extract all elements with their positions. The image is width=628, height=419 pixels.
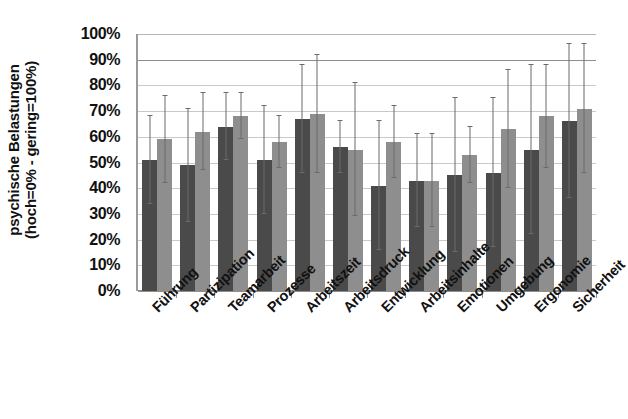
- error-bar-cap: [582, 43, 587, 44]
- y-tick-label: 40%: [89, 179, 120, 197]
- y-tick-label: 10%: [89, 256, 120, 274]
- error-bar-cap: [262, 105, 267, 106]
- error-bar: [264, 106, 265, 214]
- error-bar-cap: [467, 182, 472, 183]
- error-bar-cap: [391, 177, 396, 178]
- error-bar-cap: [300, 172, 305, 173]
- bar-slot: [348, 34, 363, 291]
- error-bar: [164, 96, 165, 183]
- bar-slot: [524, 34, 539, 291]
- error-bar: [569, 44, 570, 198]
- bar-group: [558, 34, 596, 291]
- error-bar: [225, 93, 226, 160]
- error-bar-cap: [529, 64, 534, 65]
- bar-slot: [257, 34, 272, 291]
- y-axis-title-line2: (hoch=0% - gering=100%): [23, 61, 40, 239]
- error-bar: [531, 65, 532, 235]
- y-tick-label: 70%: [89, 102, 120, 120]
- bar-group: [253, 34, 291, 291]
- error-bar-cap: [529, 233, 534, 234]
- error-bar-cap: [277, 167, 282, 168]
- error-bar-cap: [353, 215, 358, 216]
- y-tick-label: 0%: [98, 282, 120, 300]
- error-bar: [431, 134, 432, 227]
- error-bar-cap: [353, 82, 358, 83]
- error-bar-cap: [506, 187, 511, 188]
- error-bar-cap: [262, 213, 267, 214]
- error-bar-cap: [162, 95, 167, 96]
- error-bar-cap: [414, 133, 419, 134]
- bar-slot: [180, 34, 195, 291]
- error-bar-cap: [338, 172, 343, 173]
- error-bar-cap: [185, 221, 190, 222]
- error-bar-cap: [452, 97, 457, 98]
- error-bar-cap: [429, 133, 434, 134]
- y-axis-title-line1: psychische Belastungen: [6, 61, 23, 239]
- error-bar: [187, 109, 188, 222]
- bar-slot: [295, 34, 310, 291]
- error-bar: [508, 70, 509, 188]
- error-bar-cap: [277, 115, 282, 116]
- y-tick-label: 80%: [89, 76, 120, 94]
- bar-slot: [562, 34, 577, 291]
- bar-slot: [272, 34, 287, 291]
- bar-slot: [539, 34, 554, 291]
- error-bar-cap: [238, 138, 243, 139]
- error-bar-cap: [506, 69, 511, 70]
- bar-group: [138, 34, 176, 291]
- error-bar-cap: [544, 64, 549, 65]
- error-bar: [317, 55, 318, 173]
- error-bar-cap: [162, 182, 167, 183]
- bar-slot: [157, 34, 172, 291]
- bar-slot: [310, 34, 325, 291]
- bar-slot: [333, 34, 348, 291]
- error-bar: [240, 93, 241, 139]
- error-bar: [378, 121, 379, 250]
- y-tick-label: 100%: [81, 25, 120, 43]
- y-tick-label: 90%: [89, 51, 120, 69]
- error-bar: [279, 116, 280, 167]
- x-axis-tick-labels: FührungPartizipationTeamarbeitProzesseAr…: [136, 298, 594, 418]
- error-bar-cap: [452, 251, 457, 252]
- y-tick-label: 20%: [89, 231, 120, 249]
- bar-slot: [371, 34, 386, 291]
- error-bar: [340, 121, 341, 172]
- error-bar-cap: [429, 226, 434, 227]
- error-bar-cap: [567, 43, 572, 44]
- error-bar-cap: [491, 97, 496, 98]
- error-bar-cap: [315, 54, 320, 55]
- bar-group: [291, 34, 329, 291]
- error-bar-cap: [223, 92, 228, 93]
- error-bar-cap: [338, 120, 343, 121]
- error-bar: [416, 134, 417, 227]
- error-bar-cap: [376, 120, 381, 121]
- error-bar: [355, 83, 356, 217]
- error-bar-cap: [185, 108, 190, 109]
- bar-slot: [447, 34, 462, 291]
- error-bar: [454, 98, 455, 252]
- error-bar-cap: [223, 159, 228, 160]
- error-bar-cap: [414, 226, 419, 227]
- error-bar: [469, 127, 470, 184]
- error-bar-cap: [200, 169, 205, 170]
- error-bar-cap: [544, 167, 549, 168]
- error-bar: [302, 65, 303, 173]
- y-tick-label: 60%: [89, 128, 120, 146]
- plot-area: [136, 34, 596, 291]
- error-bar-cap: [200, 92, 205, 93]
- bar-slot: [142, 34, 157, 291]
- y-tick-label: 50%: [89, 154, 120, 172]
- error-bar-cap: [567, 197, 572, 198]
- y-tick-label: 30%: [89, 205, 120, 223]
- error-bar-cap: [238, 92, 243, 93]
- error-bar-cap: [391, 105, 396, 106]
- y-axis-tick-labels: 100%90%80%70%60%50%40%30%20%10%0%: [42, 26, 120, 298]
- error-bar-cap: [300, 64, 305, 65]
- bar-group: [176, 34, 214, 291]
- bar-slot: [577, 34, 592, 291]
- error-bar-cap: [315, 172, 320, 173]
- bar-slot: [409, 34, 424, 291]
- error-bar-cap: [582, 172, 587, 173]
- error-bar: [149, 116, 150, 203]
